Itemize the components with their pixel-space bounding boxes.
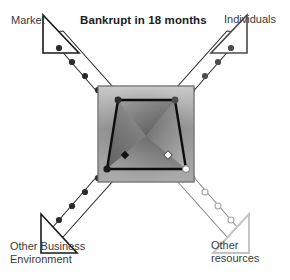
value-trapezoid (107, 100, 186, 169)
other-resources-endpoint-marker (183, 166, 190, 173)
page-title: Bankrupt in 18 months (80, 14, 207, 27)
other-business-dot (69, 203, 75, 209)
other-resources-dot (215, 203, 221, 209)
individuals-dot (228, 45, 234, 51)
market-dot (82, 73, 88, 79)
other-business-dot (82, 189, 88, 195)
axis-label-market: Market (11, 14, 45, 27)
other-business-dot (56, 217, 62, 223)
individuals-endpoint-marker (172, 97, 179, 104)
market-dot (56, 45, 62, 51)
diagram-svg (0, 0, 290, 280)
market-endpoint-marker (115, 97, 122, 104)
market-dot (69, 59, 75, 65)
other-resources-dot (228, 217, 234, 223)
individuals-dot (202, 73, 208, 79)
figure-canvas: Bankrupt in 18 months Market Individuals… (0, 0, 290, 280)
individuals-dot (215, 59, 221, 65)
other-resources-dot (202, 189, 208, 195)
axis-label-other-resources: Other resources (211, 239, 259, 264)
axis-label-individuals: Individuals (224, 13, 276, 26)
axis-label-other-business-environment: Other Business Environment (10, 240, 85, 265)
other-business-endpoint-marker (103, 165, 110, 172)
